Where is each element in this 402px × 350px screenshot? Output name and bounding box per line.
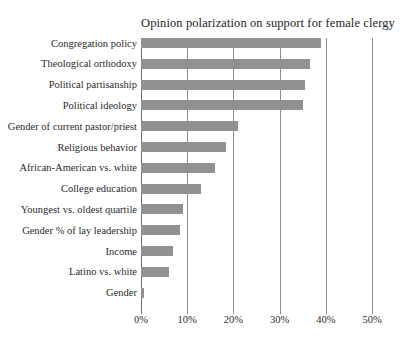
x-tick-label: 20% bbox=[208, 314, 258, 325]
x-tick-label: 50% bbox=[347, 314, 397, 325]
x-tick-label: 40% bbox=[301, 314, 351, 325]
x-tick-label: 30% bbox=[255, 314, 305, 325]
chart-container: Opinion polarization on support for fema… bbox=[0, 0, 402, 350]
x-tick-label: 10% bbox=[162, 314, 212, 325]
x-axis-labels: 0%10%20%30%40%50% bbox=[0, 0, 402, 350]
x-tick-label: 0% bbox=[116, 314, 166, 325]
